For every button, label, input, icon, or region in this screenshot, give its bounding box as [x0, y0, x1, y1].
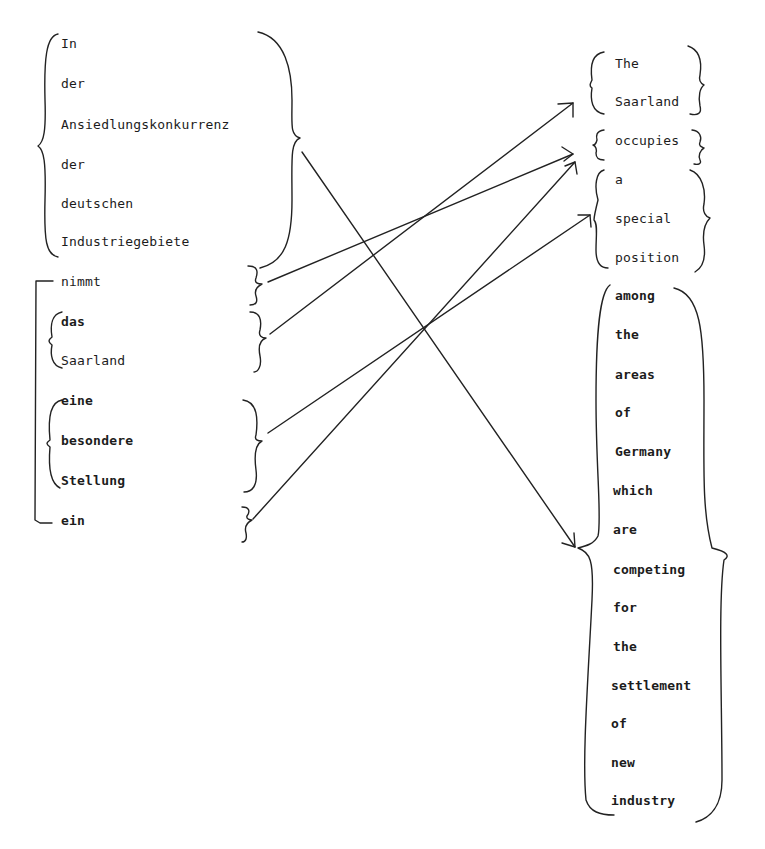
german-word: Ansiedlungskonkurrenz [61, 117, 230, 133]
english-pp-right-brace [674, 288, 727, 822]
english-word: The [615, 56, 639, 72]
english-word: Saarland [615, 94, 679, 110]
german-word: Industriegebiete [61, 234, 189, 250]
english-word: position [615, 250, 679, 266]
english-verb: occupies [615, 133, 679, 149]
english-word: of [615, 405, 631, 421]
english-word: which [613, 483, 653, 499]
german-word: In [61, 36, 77, 52]
german-word: der [61, 76, 85, 92]
english-word: are [613, 522, 637, 538]
german-word: deutschen [61, 196, 133, 212]
german-word: Saarland [61, 353, 125, 369]
english-word: settlement [611, 678, 691, 694]
english-word: among [615, 288, 655, 304]
english-word: the [613, 639, 637, 655]
german-word: der [61, 157, 85, 173]
english-word: for [613, 600, 637, 616]
german-pp-left-brace [38, 34, 58, 257]
english-pp-left-brace [578, 285, 614, 815]
the-saarland-left-brace [590, 52, 604, 114]
eine-stellung-right-brace [243, 400, 262, 492]
sentence-bracket [35, 281, 53, 523]
special-position-right-brace [690, 170, 710, 272]
english-word: competing [613, 562, 685, 578]
arrow-ein-to-occupies-head [565, 162, 577, 174]
occupies-right-brace [692, 130, 704, 164]
english-word: industry [611, 793, 675, 809]
english-word: special [615, 211, 671, 227]
the-saarland-right-brace [688, 46, 704, 115]
german-verb-part1: nimmt [61, 274, 101, 290]
english-word: areas [615, 367, 655, 383]
german-word: eine [61, 393, 93, 409]
english-word: a [615, 172, 623, 188]
german-word: besondere [61, 433, 133, 449]
ein-right-brace [242, 507, 252, 542]
arrow-ein-to-occupies [253, 162, 575, 519]
arrow-pp-to-pp [302, 152, 575, 547]
arrow-das-saarland-to-the-saarland [270, 103, 573, 334]
occupies-left-brace [593, 130, 604, 160]
special-position-left-brace [594, 170, 608, 268]
nimmt-right-brace [248, 266, 262, 305]
german-word: Stellung [61, 473, 125, 489]
german-word: das [61, 314, 85, 330]
das-saarland-right-brace [250, 312, 266, 372]
german-pp-right-brace [258, 32, 300, 268]
english-word: of [611, 716, 627, 732]
english-word: Germany [615, 444, 671, 460]
german-verb-part2: ein [61, 513, 85, 529]
arrow-nimmt-to-occupies [268, 154, 573, 282]
english-word: the [615, 327, 639, 343]
english-word: new [611, 755, 635, 771]
eine-stellung-left-brace [47, 400, 62, 488]
